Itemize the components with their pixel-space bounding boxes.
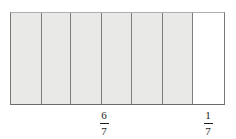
unshaded-fraction-bar-rule bbox=[204, 123, 213, 124]
shaded-fraction-denominator: 7 bbox=[87, 125, 121, 137]
fraction-bar-figure: 6 7 1 7 bbox=[0, 0, 236, 139]
bar-cell-4 bbox=[101, 12, 132, 105]
bar-cell-7 bbox=[192, 12, 225, 105]
shaded-fraction-bar-rule bbox=[100, 123, 109, 124]
unshaded-fraction-label: 1 7 bbox=[191, 110, 225, 137]
unshaded-fraction-denominator: 7 bbox=[191, 125, 225, 137]
shaded-fraction-label: 6 7 bbox=[87, 110, 121, 137]
bar-cell-3 bbox=[70, 12, 103, 105]
bar-cell-2 bbox=[41, 12, 71, 105]
bar-cell-1 bbox=[10, 12, 43, 105]
shaded-fraction-numerator: 6 bbox=[87, 110, 121, 122]
fraction-bar bbox=[10, 12, 225, 105]
bar-cell-6 bbox=[162, 12, 193, 105]
bar-cell-5 bbox=[131, 12, 163, 105]
unshaded-fraction-numerator: 1 bbox=[191, 110, 225, 122]
